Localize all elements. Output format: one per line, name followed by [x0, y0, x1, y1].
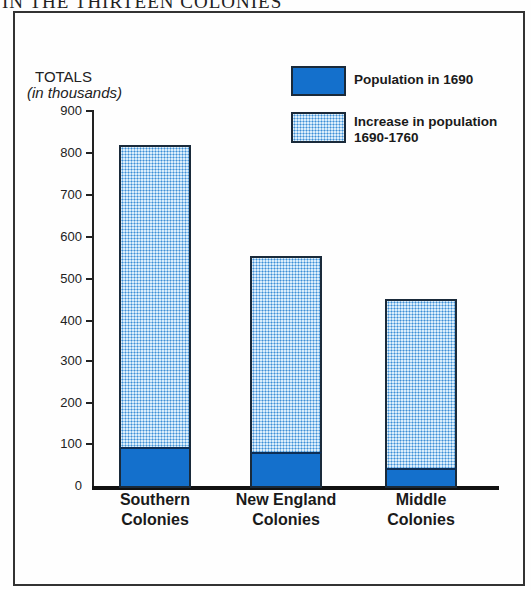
category-label-newengland: New England Colonies — [221, 490, 351, 530]
category-label-middle: Middle Colonies — [356, 490, 486, 530]
legend-swatch-increase — [291, 112, 346, 143]
tick-500 — [86, 278, 93, 280]
bar-middle-1690 — [385, 468, 457, 488]
y-axis-line — [92, 110, 94, 488]
tick-700 — [86, 194, 93, 196]
tick-200 — [86, 402, 93, 404]
tick-label-0: 0 — [38, 479, 82, 493]
tick-label-800: 800 — [38, 146, 82, 160]
tick-600 — [86, 236, 93, 238]
tick-label-500: 500 — [38, 272, 82, 286]
tick-label-300: 300 — [38, 354, 82, 368]
tick-label-700: 700 — [38, 188, 82, 202]
tick-label-200: 200 — [38, 396, 82, 410]
bar-southern-increase — [119, 145, 191, 450]
tick-100 — [86, 443, 93, 445]
legend-label-increase-line2: 1690-1760 — [354, 130, 497, 146]
bar-southern-1690 — [119, 447, 191, 488]
legend-label-1690: Population in 1690 — [354, 72, 473, 88]
category-line2: Colonies — [90, 510, 220, 530]
tick-label-600: 600 — [38, 230, 82, 244]
y-axis-title: TOTALS — [35, 68, 92, 85]
category-line1: Middle — [356, 490, 486, 510]
category-line1: Southern — [90, 490, 220, 510]
y-axis-subtitle: (in thousands) — [27, 84, 122, 101]
tick-label-100: 100 — [38, 437, 82, 451]
bar-newengland-increase — [250, 256, 322, 455]
tick-900 — [86, 110, 93, 112]
tick-400 — [86, 320, 93, 322]
tick-label-400: 400 — [38, 314, 82, 328]
category-label-southern: Southern Colonies — [90, 490, 220, 530]
tick-300 — [86, 360, 93, 362]
bar-middle-increase — [385, 299, 457, 471]
tick-label-900: 900 — [38, 104, 82, 118]
legend-label-increase-line1: Increase in population — [354, 114, 497, 130]
category-line2: Colonies — [356, 510, 486, 530]
category-line1: New England — [221, 490, 351, 510]
category-line2: Colonies — [221, 510, 351, 530]
bar-newengland-1690 — [250, 452, 322, 488]
tick-800 — [86, 152, 93, 154]
legend-swatch-1690 — [291, 66, 346, 96]
legend-label-increase: Increase in population 1690-1760 — [354, 114, 497, 146]
